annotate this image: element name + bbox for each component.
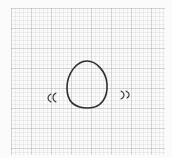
egg-outline [67, 61, 107, 108]
motion-marks-left-icon [48, 93, 56, 102]
motion-marks-right-icon [121, 91, 129, 99]
egg-sketch [0, 0, 172, 158]
